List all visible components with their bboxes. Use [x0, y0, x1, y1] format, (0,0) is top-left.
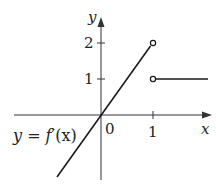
- function-label-post: (x): [55, 126, 77, 145]
- y-tick-label-1: 1: [84, 70, 94, 88]
- series-line-2x: [57, 46, 151, 177]
- function-label: y = f′(x): [12, 126, 77, 145]
- x-tick-label-1: 1: [148, 123, 158, 141]
- derivative-graph: 2 1 0 1 y x y = f′(x): [0, 0, 216, 184]
- open-endpoint-1-1: [150, 76, 155, 81]
- y-tick-label-2: 2: [84, 34, 94, 52]
- x-axis-arrow-icon: [202, 112, 212, 119]
- y-axis-label: y: [87, 8, 97, 26]
- origin-label: 0: [105, 120, 115, 138]
- function-label-pre: y = f: [12, 126, 55, 145]
- open-endpoint-1-2: [150, 40, 155, 45]
- x-axis-label: x: [201, 120, 210, 138]
- y-axis-arrow-icon: [98, 17, 105, 27]
